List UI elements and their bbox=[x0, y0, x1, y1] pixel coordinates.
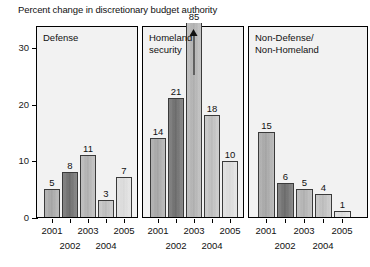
plot-area-homeland-security: 14 21 85 18 10 bbox=[143, 27, 243, 217]
offscale-arrow-icon bbox=[190, 29, 199, 75]
panel-label-defense: Defense bbox=[43, 32, 78, 44]
bar-nondefense-2004[interactable]: 4 bbox=[315, 194, 332, 217]
x-label-2001: 2001 bbox=[255, 225, 276, 236]
bar-homeland-2004[interactable]: 18 bbox=[204, 115, 220, 217]
x-axis-defense: 2001 2002 2003 2004 2005 bbox=[37, 219, 137, 265]
bar-value-label-offscale: 85 bbox=[189, 11, 200, 22]
bar-value-label: 4 bbox=[321, 182, 326, 193]
panel-group: Defense 5 8 11 3 7 bbox=[36, 26, 368, 222]
bar-value-label: 3 bbox=[103, 188, 108, 199]
panel-label-homeland-security: Homeland security bbox=[149, 32, 192, 55]
x-label-2002: 2002 bbox=[59, 240, 80, 251]
bar-value-label: 18 bbox=[207, 103, 218, 114]
bar-nondefense-2005[interactable]: 1 bbox=[334, 211, 351, 217]
x-axis-non-defense-non-homeland: 2001 2002 2003 2004 2005 bbox=[249, 219, 367, 265]
bar-value-label: 21 bbox=[171, 86, 182, 97]
y-tick-label-10: 10 bbox=[18, 155, 29, 166]
x-label-2003: 2003 bbox=[77, 225, 98, 236]
bar-defense-2001[interactable]: 5 bbox=[44, 189, 60, 217]
bar-value-label: 1 bbox=[340, 199, 345, 210]
x-label-2004: 2004 bbox=[95, 240, 116, 251]
bar-value-label: 10 bbox=[225, 149, 236, 160]
x-label-2002: 2002 bbox=[274, 240, 295, 251]
x-label-2001: 2001 bbox=[147, 225, 168, 236]
x-label-2001: 2001 bbox=[41, 225, 62, 236]
bar-defense-2002[interactable]: 8 bbox=[62, 172, 78, 217]
y-tick-label-20: 20 bbox=[18, 99, 29, 110]
bar-value-label: 11 bbox=[83, 143, 93, 154]
bar-homeland-2001[interactable]: 14 bbox=[150, 138, 166, 217]
panel-homeland-security: Homeland security 14 21 85 18 bbox=[142, 26, 244, 218]
bar-defense-2004[interactable]: 3 bbox=[98, 200, 114, 217]
panel-defense: Defense 5 8 11 3 7 bbox=[36, 26, 138, 218]
x-label-2004: 2004 bbox=[312, 240, 333, 251]
bar-value-label: 8 bbox=[67, 160, 72, 171]
panel-non-defense-non-homeland: Non-Defense/ Non-Homeland 15 6 5 4 1 bbox=[248, 26, 368, 218]
x-label-2004: 2004 bbox=[201, 240, 222, 251]
x-label-2002: 2002 bbox=[165, 240, 186, 251]
x-label-2005: 2005 bbox=[331, 225, 352, 236]
y-axis: 0 10 20 30 bbox=[0, 26, 38, 222]
bar-value-label: 5 bbox=[302, 177, 307, 188]
x-label-2005: 2005 bbox=[113, 225, 134, 236]
bar-value-label: 14 bbox=[153, 126, 164, 137]
bar-defense-2003[interactable]: 11 bbox=[80, 155, 96, 217]
bar-nondefense-2001[interactable]: 15 bbox=[258, 132, 275, 217]
bar-value-label: 5 bbox=[49, 177, 54, 188]
x-axis-homeland-security: 2001 2002 2003 2004 2005 bbox=[143, 219, 243, 265]
bar-nondefense-2002[interactable]: 6 bbox=[277, 183, 294, 217]
bar-nondefense-2003[interactable]: 5 bbox=[296, 189, 313, 217]
bar-homeland-2002[interactable]: 21 bbox=[168, 98, 184, 217]
bar-defense-2005[interactable]: 7 bbox=[116, 177, 132, 217]
bar-value-label: 15 bbox=[261, 120, 272, 131]
panel-label-non-defense-non-homeland: Non-Defense/ Non-Homeland bbox=[255, 32, 319, 55]
x-label-2003: 2003 bbox=[183, 225, 204, 236]
bar-homeland-2005[interactable]: 10 bbox=[222, 161, 238, 217]
chart-title: Percent change in discretionary budget a… bbox=[18, 4, 217, 15]
y-tick-label-0: 0 bbox=[24, 212, 29, 223]
y-tick-label-30: 30 bbox=[18, 42, 29, 53]
x-label-2003: 2003 bbox=[293, 225, 314, 236]
plot-area-non-defense-non-homeland: 15 6 5 4 1 bbox=[249, 27, 367, 217]
figure-root: Percent change in discretionary budget a… bbox=[0, 0, 370, 267]
plot-area-defense: 5 8 11 3 7 bbox=[37, 27, 137, 217]
x-label-2005: 2005 bbox=[219, 225, 240, 236]
bar-value-label: 7 bbox=[121, 165, 126, 176]
bar-value-label: 6 bbox=[283, 171, 288, 182]
